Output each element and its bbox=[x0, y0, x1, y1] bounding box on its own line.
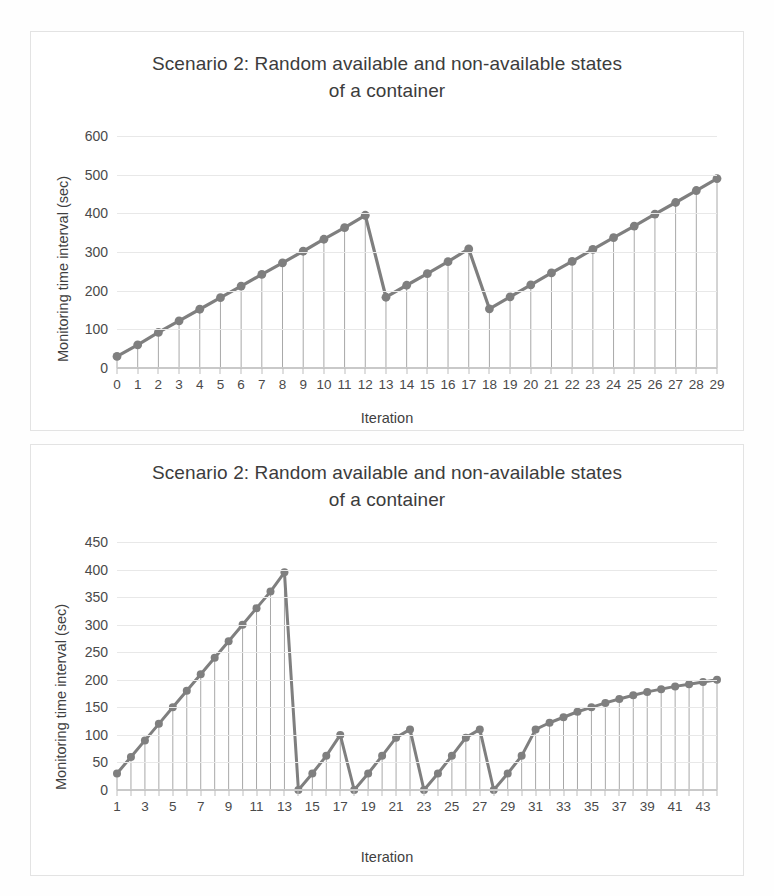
x-tick bbox=[117, 368, 118, 374]
x-tick bbox=[284, 790, 285, 796]
x-tick-label: 18 bbox=[482, 377, 497, 392]
x-tick-label: 25 bbox=[444, 799, 459, 814]
chart-1-title: Scenario 2: Random available and non-ava… bbox=[31, 50, 743, 104]
chart-card-1: Scenario 2: Random available and non-ava… bbox=[30, 31, 744, 431]
x-tick bbox=[228, 790, 229, 796]
x-tick bbox=[563, 790, 564, 796]
x-tick bbox=[717, 368, 718, 374]
x-tick bbox=[214, 790, 215, 796]
chart-1-x-axis-line bbox=[117, 367, 717, 368]
x-tick bbox=[385, 368, 386, 374]
x-tick bbox=[410, 790, 411, 796]
x-tick-label: 4 bbox=[196, 377, 204, 392]
x-tick bbox=[507, 790, 508, 796]
gridline bbox=[117, 762, 717, 763]
x-tick bbox=[396, 790, 397, 796]
x-tick bbox=[303, 368, 304, 374]
x-tick-label: 43 bbox=[696, 799, 711, 814]
x-tick-label: 27 bbox=[668, 377, 683, 392]
chart-1-title-line1: Scenario 2: Random available and non-ava… bbox=[31, 50, 743, 77]
x-tick bbox=[510, 368, 511, 374]
x-tick bbox=[535, 790, 536, 796]
x-tick bbox=[572, 368, 573, 374]
x-tick bbox=[172, 790, 173, 796]
x-tick-label: 11 bbox=[338, 377, 352, 392]
x-tick bbox=[298, 790, 299, 796]
x-tick bbox=[382, 790, 383, 796]
x-tick-label: 19 bbox=[361, 799, 376, 814]
x-tick-label: 19 bbox=[503, 377, 518, 392]
x-tick bbox=[613, 368, 614, 374]
x-tick bbox=[551, 368, 552, 374]
x-tick-label: 37 bbox=[612, 799, 627, 814]
chart-1-title-line2: of a container bbox=[31, 77, 743, 104]
y-tick-label: 150 bbox=[85, 699, 108, 715]
x-tick bbox=[256, 790, 257, 796]
y-tick-label: 400 bbox=[85, 205, 108, 221]
x-tick bbox=[530, 368, 531, 374]
x-tick bbox=[326, 790, 327, 796]
x-tick-label: 5 bbox=[217, 377, 225, 392]
x-tick bbox=[323, 368, 324, 374]
x-tick-label: 11 bbox=[250, 799, 264, 814]
x-tick bbox=[423, 790, 424, 796]
chart-card-2: Scenario 2: Random available and non-ava… bbox=[30, 444, 744, 876]
gridline bbox=[117, 291, 717, 292]
x-tick bbox=[717, 790, 718, 796]
x-tick bbox=[675, 790, 676, 796]
chart-2-x-axis-label: Iteration bbox=[31, 849, 743, 865]
chart-2-title-line2: of a container bbox=[31, 486, 743, 513]
x-tick bbox=[521, 790, 522, 796]
y-tick-label: 600 bbox=[85, 128, 108, 144]
x-tick bbox=[654, 368, 655, 374]
x-tick bbox=[592, 368, 593, 374]
gridline bbox=[117, 570, 717, 571]
x-tick bbox=[703, 790, 704, 796]
x-tick bbox=[577, 790, 578, 796]
x-tick-label: 21 bbox=[544, 377, 559, 392]
x-tick-label: 35 bbox=[584, 799, 599, 814]
x-tick-label: 13 bbox=[378, 377, 393, 392]
gridline bbox=[117, 680, 717, 681]
y-tick-label: 50 bbox=[92, 754, 108, 770]
y-tick-label: 0 bbox=[100, 360, 108, 376]
x-tick-label: 5 bbox=[169, 799, 177, 814]
x-tick-label: 9 bbox=[225, 799, 233, 814]
chart-2-title: Scenario 2: Random available and non-ava… bbox=[31, 459, 743, 513]
x-tick bbox=[200, 790, 201, 796]
x-tick bbox=[591, 790, 592, 796]
x-tick bbox=[340, 790, 341, 796]
x-tick-label: 25 bbox=[627, 377, 642, 392]
y-tick-label: 200 bbox=[85, 283, 108, 299]
y-tick-label: 500 bbox=[85, 167, 108, 183]
x-tick bbox=[633, 790, 634, 796]
chart-2-plot-area: 050100150200250300350400450 135791113151… bbox=[117, 542, 717, 790]
x-tick bbox=[270, 790, 271, 796]
x-tick bbox=[242, 790, 243, 796]
y-tick-label: 100 bbox=[85, 321, 108, 337]
chart-1-gridlines: 0100200300400500600 bbox=[117, 136, 717, 368]
x-tick-label: 16 bbox=[441, 377, 456, 392]
x-tick-label: 29 bbox=[709, 377, 724, 392]
x-tick bbox=[158, 368, 159, 374]
x-tick bbox=[199, 368, 200, 374]
x-tick-label: 1 bbox=[134, 377, 142, 392]
x-tick-label: 7 bbox=[197, 799, 205, 814]
x-tick-label: 31 bbox=[528, 799, 543, 814]
x-tick bbox=[619, 790, 620, 796]
x-tick-label: 15 bbox=[420, 377, 435, 392]
x-tick-label: 10 bbox=[316, 377, 331, 392]
x-tick bbox=[647, 790, 648, 796]
x-tick-label: 29 bbox=[500, 799, 515, 814]
x-tick bbox=[406, 368, 407, 374]
x-tick-label: 14 bbox=[399, 377, 414, 392]
x-tick-label: 20 bbox=[523, 377, 538, 392]
x-tick bbox=[261, 368, 262, 374]
x-tick bbox=[312, 790, 313, 796]
y-tick-label: 200 bbox=[85, 672, 108, 688]
x-tick-label: 39 bbox=[640, 799, 655, 814]
y-tick-label: 450 bbox=[85, 534, 108, 550]
x-tick-label: 17 bbox=[333, 799, 348, 814]
gridline bbox=[117, 175, 717, 176]
chart-2-x-axis-line bbox=[117, 789, 717, 790]
